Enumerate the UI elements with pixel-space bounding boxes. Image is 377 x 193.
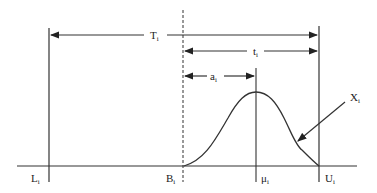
- label-B: Bi: [166, 172, 175, 186]
- label-a: ai: [210, 70, 217, 84]
- label-mu: μi: [261, 172, 269, 186]
- label-L: Li: [31, 172, 40, 186]
- label-U: Ui: [325, 172, 335, 186]
- diagram-canvas: Ti ti ai Xi Li Bi μi Ui: [0, 0, 377, 193]
- distribution-curve: [184, 92, 319, 166]
- label-T: Ti: [150, 29, 159, 43]
- x-pointer-arrow: [298, 102, 345, 141]
- label-X: Xi: [350, 91, 360, 105]
- label-t: ti: [253, 45, 258, 59]
